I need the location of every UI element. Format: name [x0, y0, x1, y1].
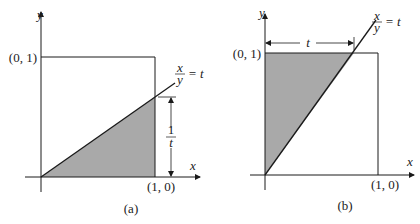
point-label-0-1-a: (0, 1) — [9, 50, 37, 65]
x-axis-label-b: x — [406, 154, 413, 169]
line-label-den-a: y — [175, 72, 183, 87]
point-label-1-0-a: (1, 0) — [147, 179, 175, 194]
figure: 1 t y x (0, 1) (1, 0) x y = t (a) t y x … — [0, 0, 420, 224]
y-axis-label-b: y — [257, 5, 265, 20]
y-axis-label-a: y — [35, 7, 43, 22]
line-label-den-b: y — [372, 20, 380, 35]
panel-b: t y x (0, 1) (1, 0) x y = t (b) — [233, 5, 414, 213]
point-label-1-0-b: (1, 0) — [371, 177, 399, 192]
line-label-rhs-b: = t — [385, 14, 401, 29]
x-axis-label-a: x — [189, 158, 196, 173]
dimension-label-b: t — [306, 35, 310, 50]
caption-a: (a) — [124, 201, 138, 216]
caption-b: (b) — [337, 198, 352, 213]
panel-a: 1 t y x (0, 1) (1, 0) x y = t (a) — [9, 7, 204, 216]
point-label-0-1-b: (0, 1) — [233, 46, 261, 61]
line-label-rhs-a: = t — [188, 66, 204, 81]
dimension-label-den-a: t — [169, 135, 173, 150]
